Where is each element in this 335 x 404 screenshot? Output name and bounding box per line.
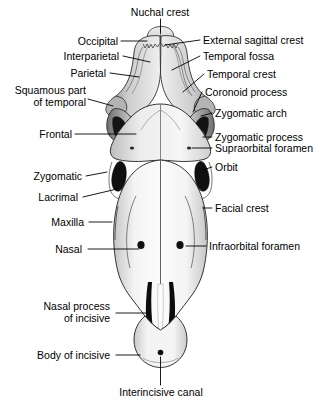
- label-orbit: Orbit: [215, 161, 275, 173]
- label-occipital: Occipital: [20, 35, 118, 47]
- supraorbital-foramen-right: [187, 146, 191, 149]
- label-parietal: Parietal: [14, 67, 106, 79]
- label-lacrimal: Lacrimal: [12, 191, 78, 203]
- label-frontal: Frontal: [16, 128, 72, 140]
- label-facial-crest: Facial crest: [215, 202, 315, 214]
- infraorbital-foramen-right: [176, 241, 183, 249]
- label-interincisive-canal: Interincisive canal: [90, 386, 232, 398]
- label-supraorbital-foramen: Supraorbital foramen: [215, 142, 335, 154]
- label-zygomatic-arch: Zygomatic arch: [215, 107, 335, 119]
- supraorbital-foramen-left: [130, 146, 134, 149]
- label-temporal-fossa: Temporal fossa: [203, 50, 323, 62]
- label-temporal-crest: Temporal crest: [207, 68, 325, 80]
- interincisive-canal: [158, 350, 164, 356]
- label-maxilla: Maxilla: [22, 216, 84, 228]
- figure-page: Nuchal crest Occipital External sagittal…: [0, 0, 335, 404]
- label-external-sagittal-crest: External sagittal crest: [203, 34, 335, 46]
- label-interparietal: Interparietal: [6, 50, 119, 62]
- label-zygomatic: Zygomatic: [10, 170, 82, 182]
- label-squamous-part-of-temporal: Squamous part of temporal: [2, 84, 86, 108]
- label-nuchal-crest: Nuchal crest: [105, 6, 215, 18]
- label-coronoid-process: Coronoid process: [205, 86, 333, 98]
- label-infraorbital-foramen: Infraorbital foramen: [209, 240, 335, 252]
- label-body-of-incisive: Body of incisive: [22, 349, 110, 361]
- leader-zygomatic: [86, 172, 107, 176]
- label-nasal-process-of-incisive: Nasal process of incisive: [18, 300, 110, 324]
- infraorbital-foramen-left: [137, 241, 144, 249]
- label-nasal: Nasal: [30, 243, 82, 255]
